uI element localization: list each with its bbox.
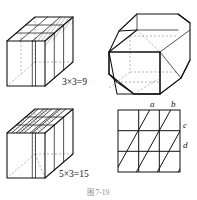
cube2-bottom-hidden-2 [134, 78, 160, 94]
figure-7-19: 3×3=9 [0, 0, 197, 200]
equation-label-3x3: 3×3=9 [62, 77, 87, 87]
cube2-cut-bottom-left [109, 74, 134, 94]
figure-canvas: 3×3=9 [0, 0, 197, 200]
cube2-hidden-left [109, 72, 130, 88]
panel-cube-diagonal-slices: 5×3=15 [7, 109, 89, 179]
panel-cube-three-by-three-slices: 3×3=9 [7, 17, 87, 87]
cube2-cut-top-left-a [109, 30, 137, 52]
cube3-front-face [7, 133, 45, 178]
cube2-right-inner-diag [160, 52, 181, 78]
label-d: d [183, 140, 188, 150]
panel-cube-truncated-corners [109, 14, 190, 94]
panel-square-grid-with-diagonals: a b c d [112, 99, 197, 178]
equation-label-5x3: 5×3=15 [59, 169, 89, 179]
grid-outer-border [118, 110, 180, 172]
label-b: b [171, 99, 176, 109]
cube2-cut-top-left-b [119, 30, 137, 31]
cube2-cut-right-top [178, 14, 190, 23]
figure-caption: 图 7-19 [87, 188, 110, 197]
cube2-top-slant-hidden [137, 30, 160, 52]
diagonal-c [154, 104, 195, 178]
label-a: a [150, 99, 155, 109]
cube2-right-bottom-edge [160, 78, 181, 94]
label-c: c [183, 120, 187, 130]
cube2-top-right-slant [160, 30, 190, 52]
cube2-front-face [109, 52, 160, 94]
cube2-cut-right-bottom [181, 60, 190, 78]
cube1-front-face [7, 41, 45, 86]
